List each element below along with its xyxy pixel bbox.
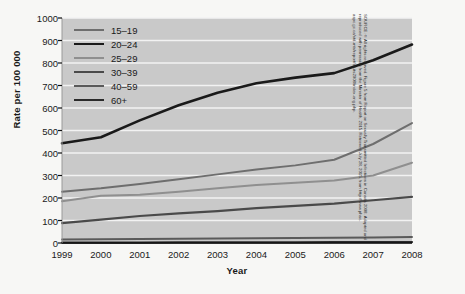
- legend-color-swatch: [74, 43, 104, 46]
- source-note: SOURCE: © All rights reserved. Figure 5 …: [352, 14, 368, 248]
- legend-item-label: 60+: [111, 95, 127, 106]
- chart-legend: 15–1920–2425–2930–3940–5960+: [74, 24, 137, 106]
- legend-item-label: 20–24: [111, 39, 137, 50]
- legend-item[interactable]: 15–19: [74, 24, 137, 36]
- legend-item-label: 40–59: [111, 81, 137, 92]
- legend-item[interactable]: 30–39: [74, 66, 137, 78]
- legend-color-swatch: [74, 71, 104, 73]
- legend-item[interactable]: 25–29: [74, 52, 137, 64]
- legend-color-swatch: [74, 85, 104, 87]
- legend-item[interactable]: 60+: [74, 94, 137, 106]
- legend-color-swatch: [74, 99, 104, 101]
- legend-color-swatch: [74, 57, 104, 59]
- plot-area: [0, 0, 465, 294]
- legend-item-label: 30–39: [111, 67, 137, 78]
- legend-item-label: 15–19: [111, 25, 137, 36]
- legend-item[interactable]: 20–24: [74, 38, 137, 50]
- legend-item-label: 25–29: [111, 53, 137, 64]
- legend-color-swatch: [74, 29, 104, 31]
- figure-container: Rate per 100 000 01002003004005006007008…: [0, 0, 465, 294]
- legend-item[interactable]: 40–59: [74, 80, 137, 92]
